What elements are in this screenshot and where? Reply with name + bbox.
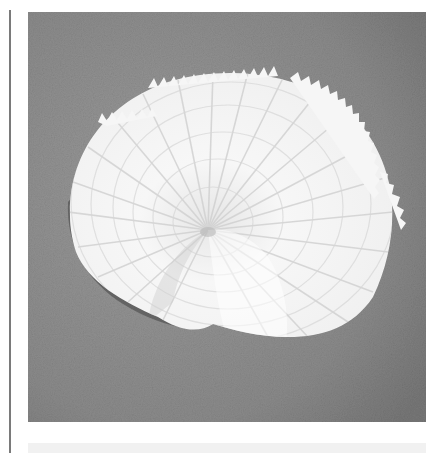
left-margin-rule: [9, 10, 11, 453]
shell-illustration: [28, 12, 426, 422]
caption-strip: [28, 443, 426, 453]
shell-photo: [28, 12, 426, 422]
